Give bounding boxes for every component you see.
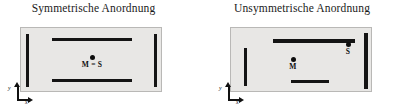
x-axis-label: x: [25, 99, 28, 105]
top-horizontal-wall: [52, 38, 132, 41]
left-vertical-wall: [26, 34, 29, 87]
x-axis-arrow-icon: [239, 97, 244, 103]
bottom-horizontal-wall: [52, 79, 132, 82]
panel-title-symmetric: Symmetrische Anordnung: [0, 2, 193, 14]
right-vertical-wall: [154, 34, 157, 87]
right-vertical-wall: [364, 33, 368, 89]
point-label-m: M: [289, 62, 296, 71]
coordinate-axis-unsymmetric: y x: [219, 82, 245, 106]
figure-container: Symmetrische Anordnung M = S y x Unsymme…: [0, 0, 397, 111]
panel-title-unsymmetric: Unsymmetrische Anordnung: [203, 2, 397, 14]
x-axis-label: x: [236, 99, 239, 105]
point-marker-dot: [346, 42, 351, 47]
panel-unsymmetric: Unsymmetrische Anordnung M S y x: [199, 0, 397, 111]
y-axis-label: y: [219, 85, 222, 91]
point-label-s: S: [346, 47, 350, 56]
bottom-horizontal-wall: [291, 80, 329, 83]
top-horizontal-wall: [273, 39, 355, 43]
panel-symmetric: Symmetrische Anordnung M = S y x: [0, 0, 199, 111]
point-label-m-equals-s: M = S: [82, 60, 102, 69]
y-axis-label: y: [8, 85, 11, 91]
coordinate-axis-symmetric: y x: [8, 82, 34, 106]
point-marker-dot: [90, 55, 95, 60]
cross-section-plate-symmetric: M = S: [20, 27, 162, 92]
left-vertical-wall: [244, 48, 247, 86]
x-axis-arrow-icon: [28, 97, 33, 103]
cross-section-plate-unsymmetric: M S: [230, 27, 372, 92]
point-marker-dot: [291, 57, 296, 62]
